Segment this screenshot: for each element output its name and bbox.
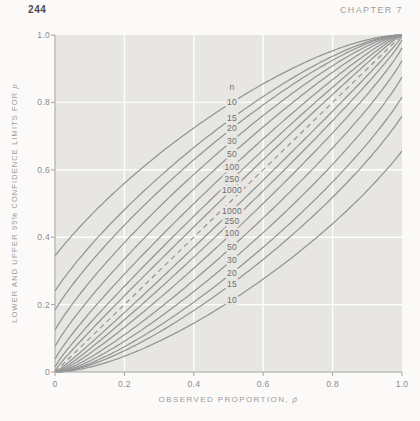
y-tick-label-0.4: 0.4 [16, 232, 50, 242]
y-tick-label-0.6: 0.6 [16, 165, 50, 175]
curve-label-upper-30: 30 [227, 136, 237, 146]
x-tick-label-0.8: 0.8 [316, 379, 350, 389]
x-tick-label-0.2: 0.2 [107, 379, 141, 389]
y-tick-label-0.2: 0.2 [16, 300, 50, 310]
x-tick-label-0: 0 [38, 379, 72, 389]
y-axis-title: LOWER AND UPPER 95% CONFIDENCE LIMITS FO… [10, 38, 20, 368]
curve-label-lower-10: 10 [227, 295, 237, 305]
curve-label-upper-15: 15 [227, 113, 237, 123]
curve-label-lower-100: 100 [224, 228, 239, 238]
p-bar-symbol: p̄ [293, 395, 299, 404]
curve-label-lower-20: 20 [227, 268, 237, 278]
confidence-belt-chart: n101015152020303050501001002502501000100… [0, 0, 420, 421]
curve-label-lower-50: 50 [227, 242, 237, 252]
x-tick-label-0.6: 0.6 [246, 379, 280, 389]
curve-label-upper-20: 20 [227, 123, 237, 133]
x-axis-title: OBSERVED PROPORTION, p̄ [55, 395, 402, 404]
curve-label-upper-1000: 1000 [222, 185, 242, 195]
p-symbol: p [10, 83, 19, 88]
curve-label-upper-250: 250 [224, 174, 239, 184]
curve-label-header-n: n [229, 82, 234, 92]
y-tick-label-1.0: 1.0 [16, 30, 50, 40]
curve-label-upper-50: 50 [227, 149, 237, 159]
curve-label-upper-100: 100 [224, 162, 239, 172]
curve-label-lower-250: 250 [224, 216, 239, 226]
curve-label-lower-15: 15 [227, 279, 237, 289]
y-tick-label-0: 0 [16, 367, 50, 377]
curve-label-lower-1000: 1000 [222, 206, 242, 216]
x-tick-label-0.4: 0.4 [177, 379, 211, 389]
y-tick-label-0.8: 0.8 [16, 97, 50, 107]
curve-label-upper-10: 10 [227, 97, 237, 107]
y-axis-title-text: LOWER AND UPPER 95% CONFIDENCE LIMITS FO… [10, 89, 19, 323]
x-tick-label-1.0: 1.0 [385, 379, 419, 389]
x-axis-title-text: OBSERVED PROPORTION, [159, 395, 293, 404]
curve-label-lower-30: 30 [227, 255, 237, 265]
